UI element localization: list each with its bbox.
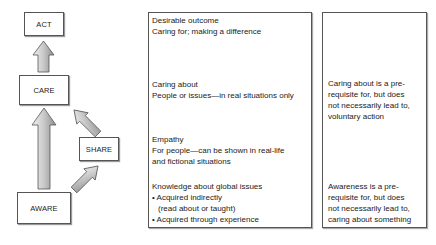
note2-line3: not necessarily lead to, (328, 203, 410, 214)
note2-line4: caring about something (328, 214, 411, 225)
node-aware-label: AWARE (30, 204, 57, 213)
outcome-title: Desirable outcome (152, 15, 219, 26)
caring-about-title: Caring about (152, 79, 198, 90)
note2-line2: requisite for, but does (328, 192, 405, 203)
knowledge-bullet-2: • Acquired through experience (152, 214, 259, 225)
knowledge-bullet-1-cont: (read about or taught) (158, 203, 235, 214)
caring-about-text: People or issues—in real situations only (152, 90, 294, 101)
node-care-label: CARE (33, 86, 54, 95)
arrow-aware-to-care (32, 108, 56, 189)
node-aware: AWARE (17, 192, 71, 224)
empathy-text-2: and fictional situations (152, 156, 231, 167)
note1-line2: requisite for, but does (328, 89, 405, 100)
empathy-title: Empathy (152, 134, 184, 145)
node-act: ACT (24, 12, 64, 36)
note1-line4: voluntary action (328, 111, 384, 122)
knowledge-title: Knowledge about global issues (152, 181, 262, 192)
knowledge-bullet-1: • Acquired indirectly (152, 192, 222, 203)
node-share-label: SHARE (86, 145, 112, 154)
node-act-label: ACT (36, 20, 51, 29)
outcome-text: Caring for; making a difference (152, 26, 261, 37)
node-share: SHARE (79, 137, 119, 161)
note2-line1: Awareness is a pre- (328, 181, 399, 192)
node-care: CARE (19, 75, 69, 105)
empathy-text-1: For people—can be shown in real-life (152, 145, 285, 156)
arrow-share-to-care (68, 104, 103, 139)
note1-line3: not necessarily lead to, (328, 100, 410, 111)
right-panel: Caring about is a pre- requisite for, bu… (322, 12, 427, 228)
middle-panel: Desirable outcome Caring for; making a d… (148, 12, 312, 228)
note1-line1: Caring about is a pre- (328, 78, 405, 89)
arrow-care-to-act (33, 41, 54, 72)
arrow-aware-to-share (68, 160, 103, 195)
